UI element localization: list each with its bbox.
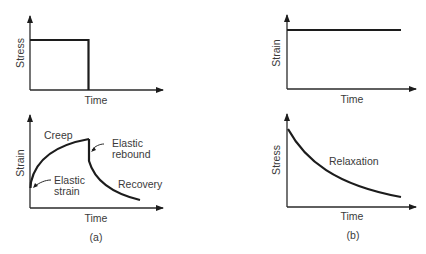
elastic-strain-leader [35,180,51,186]
panel-a-strain-plot: Creep Elastic rebound Elastic strain Rec… [14,115,163,224]
recovery-label: Recovery [118,178,163,190]
x-axis-label: Time [341,93,364,105]
y-axis-label: Stress [270,145,282,175]
y-axis-label: Stress [14,38,26,68]
panel-b-stress-plot: Relaxation Stress Time [270,114,416,222]
creep-relaxation-diagram: Stress Time Creep Elastic rebound Elasti… [0,0,426,254]
panel-a-stress-plot: Stress Time [14,16,163,106]
stress-step-curve [30,40,89,90]
relaxation-label: Relaxation [329,155,379,167]
elastic-strain-arrowhead-icon [33,183,38,188]
y-axis-label: Strain [270,39,282,67]
panel-b-strain-plot: Strain Time [270,15,416,105]
panel-b-caption: (b) [347,229,360,241]
x-axis-label: Time [85,212,108,224]
elastic-rebound-label-line2: rebound [112,148,151,160]
panel-a-caption: (a) [90,231,103,243]
x-axis-label: Time [85,94,108,106]
y-axis-label: Strain [14,149,26,177]
x-axis-label: Time [341,210,364,222]
elastic-strain-label-line2: strain [54,185,80,197]
creep-label: Creep [44,129,73,141]
